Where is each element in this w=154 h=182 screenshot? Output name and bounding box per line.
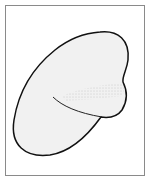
seed-illustration (0, 0, 154, 182)
